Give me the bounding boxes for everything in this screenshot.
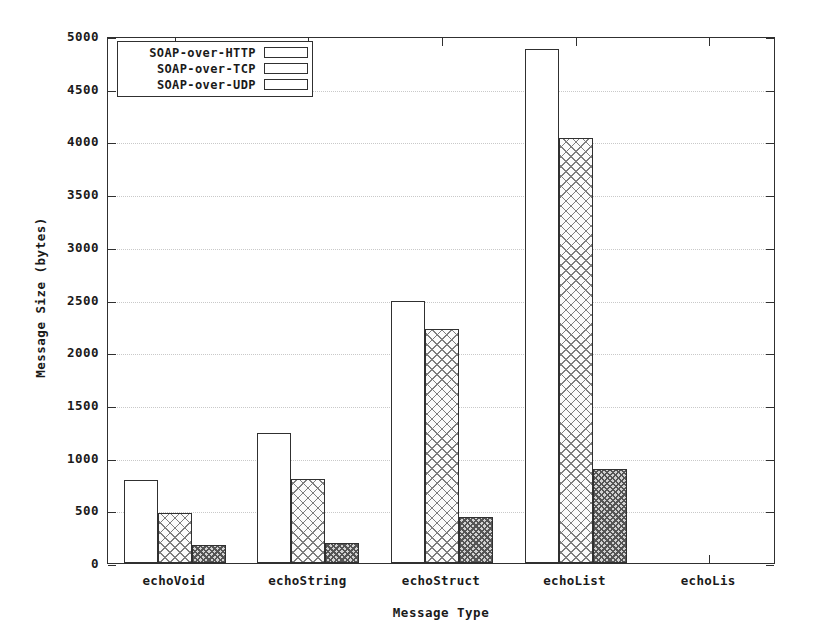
y-tick-mark — [766, 302, 774, 303]
x-axis-title: Message Type — [107, 605, 775, 620]
chart-legend: SOAP-over-HTTPSOAP-over-TCPSOAP-over-UDP — [117, 41, 313, 97]
y-tick-label: 3500 — [29, 187, 99, 202]
y-tick-mark — [108, 512, 116, 513]
x-tick-mark — [442, 38, 443, 46]
y-tick-mark — [108, 302, 116, 303]
bar — [325, 543, 359, 563]
y-tick-label: 2000 — [29, 345, 99, 360]
y-tick-label: 1500 — [29, 398, 99, 413]
y-tick-label: 0 — [29, 556, 99, 571]
legend-item: SOAP-over-TCP — [122, 61, 308, 76]
bar — [257, 433, 291, 563]
legend-swatch — [264, 63, 308, 74]
gridline — [108, 143, 774, 144]
bar — [192, 545, 226, 563]
y-tick-mark — [108, 196, 116, 197]
y-tick-label: 2500 — [29, 293, 99, 308]
bar — [459, 517, 493, 563]
x-tick-mark — [709, 38, 710, 46]
y-tick-mark — [766, 249, 774, 250]
bar — [425, 329, 459, 563]
y-tick-label: 500 — [29, 503, 99, 518]
bar-chart-figure: Message Size (bytes) 0500100015002000250… — [0, 0, 828, 640]
y-tick-mark — [766, 354, 774, 355]
legend-label: SOAP-over-UDP — [157, 78, 256, 92]
y-tick-label: 3000 — [29, 240, 99, 255]
y-tick-mark — [766, 143, 774, 144]
y-tick-label: 1000 — [29, 451, 99, 466]
bar — [559, 138, 593, 563]
legend-label: SOAP-over-HTTP — [149, 46, 256, 60]
y-tick-mark — [108, 460, 116, 461]
y-tick-mark — [766, 407, 774, 408]
gridline — [108, 249, 774, 250]
legend-item: SOAP-over-UDP — [122, 77, 308, 92]
bar — [391, 301, 425, 563]
y-tick-mark — [766, 91, 774, 92]
x-tick-label: echoLis — [628, 573, 788, 588]
y-tick-mark — [766, 38, 774, 39]
bar — [291, 479, 325, 563]
legend-swatch — [264, 47, 308, 58]
y-tick-mark — [108, 143, 116, 144]
bar — [525, 49, 559, 563]
gridline — [108, 196, 774, 197]
y-tick-label: 4000 — [29, 134, 99, 149]
x-tick-mark — [709, 555, 710, 563]
y-tick-mark — [108, 354, 116, 355]
y-tick-mark — [108, 565, 116, 566]
y-tick-label: 5000 — [29, 29, 99, 44]
y-tick-mark — [766, 512, 774, 513]
legend-item: SOAP-over-HTTP — [122, 45, 308, 60]
legend-label: SOAP-over-TCP — [157, 62, 256, 76]
y-tick-mark — [108, 91, 116, 92]
legend-swatch — [264, 79, 308, 90]
bar — [593, 469, 627, 563]
y-tick-label: 4500 — [29, 82, 99, 97]
gridline — [108, 302, 774, 303]
y-tick-mark — [108, 38, 116, 39]
y-tick-mark — [108, 407, 116, 408]
y-tick-mark — [766, 196, 774, 197]
y-tick-mark — [766, 565, 774, 566]
bar — [124, 480, 158, 563]
y-tick-mark — [108, 249, 116, 250]
plot-area: SOAP-over-HTTPSOAP-over-TCPSOAP-over-UDP — [107, 37, 775, 564]
bar — [158, 513, 192, 563]
x-tick-mark — [576, 38, 577, 46]
y-tick-mark — [766, 460, 774, 461]
